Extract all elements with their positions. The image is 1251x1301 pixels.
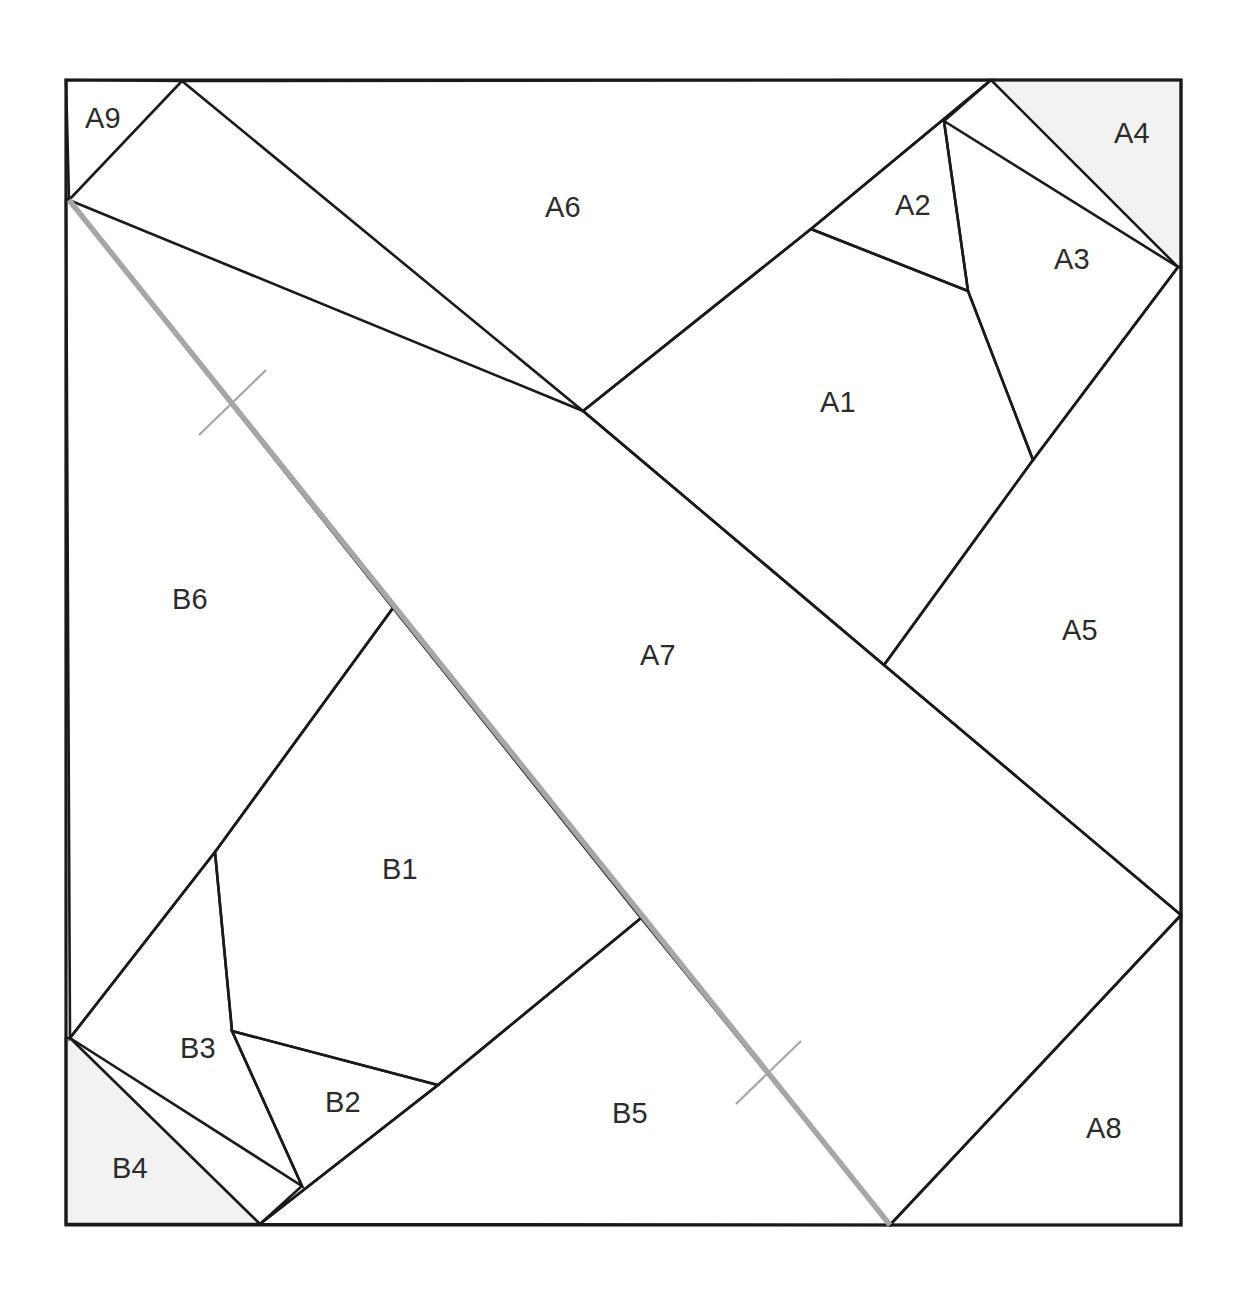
piece-label-b2: B2 xyxy=(325,1086,361,1118)
dissection-svg: A1A2A3A4A5A6A7A8A9B1B2B3B4B5B6 xyxy=(0,0,1251,1301)
piece-label-a4: A4 xyxy=(1114,117,1150,149)
dissection-figure: A1A2A3A4A5A6A7A8A9B1B2B3B4B5B6 xyxy=(0,0,1251,1301)
piece-label-b5: B5 xyxy=(612,1097,648,1129)
piece-fill-group xyxy=(66,80,1181,1225)
piece-label-b1: B1 xyxy=(382,853,418,885)
piece-label-a1: A1 xyxy=(820,386,856,418)
piece-label-b6: B6 xyxy=(172,583,208,615)
piece-label-a7: A7 xyxy=(640,639,676,671)
piece-label-a9: A9 xyxy=(85,102,121,134)
piece-label-a5: A5 xyxy=(1062,614,1098,646)
piece-label-b3: B3 xyxy=(180,1032,216,1064)
piece-label-a6: A6 xyxy=(545,191,581,223)
piece-label-a2: A2 xyxy=(895,189,931,221)
piece-label-a8: A8 xyxy=(1086,1112,1122,1144)
piece-label-b4: B4 xyxy=(112,1152,148,1184)
piece-label-a3: A3 xyxy=(1054,243,1090,275)
